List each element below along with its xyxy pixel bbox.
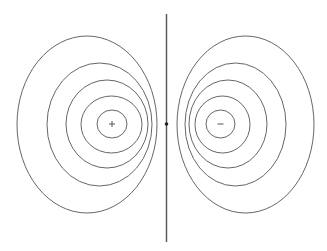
positive-charge-contours xyxy=(17,36,157,213)
left-equipotential-contour-1 xyxy=(17,36,157,213)
right-equipotential-contour-3 xyxy=(189,80,267,168)
right-equipotential-contour-1 xyxy=(177,36,314,213)
right-equipotential-contour-4 xyxy=(195,96,250,153)
negative-charge-contours xyxy=(177,36,314,213)
midpoint-dot xyxy=(165,122,169,126)
left-equipotential-contour-3 xyxy=(66,80,148,168)
plus-charge-icon xyxy=(109,121,115,127)
left-equipotential-contour-4 xyxy=(81,96,142,153)
dipole-diagram xyxy=(0,0,327,251)
